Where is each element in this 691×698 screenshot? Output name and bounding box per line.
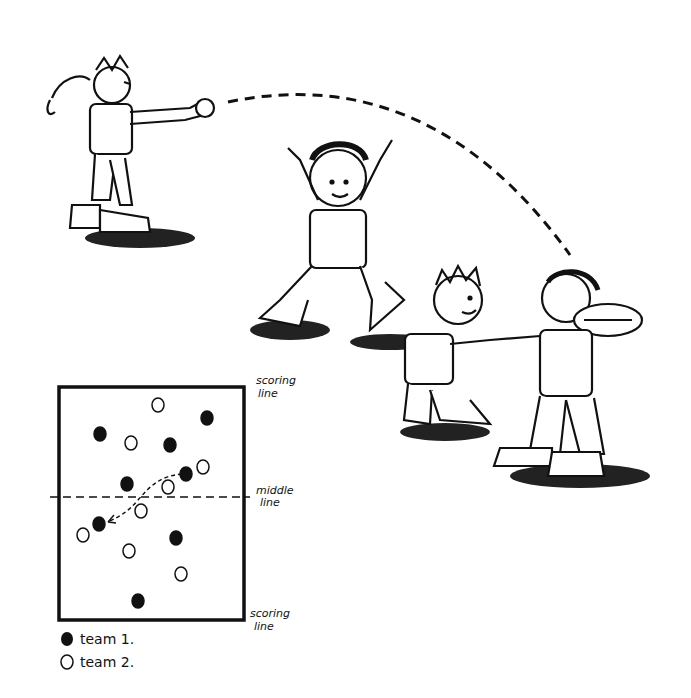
bottom-scoring-label-1: scoring <box>250 607 290 620</box>
field-diagram: scoring line middle line scoring line <box>50 374 296 633</box>
team1-player-dot <box>121 477 133 491</box>
team1-player-dot <box>180 467 192 481</box>
middle-line-label-2: line <box>260 496 280 509</box>
team1-player-dot <box>170 531 182 545</box>
figure-jumper <box>250 140 430 350</box>
team1-player-dot <box>94 427 106 441</box>
open-dot-icon <box>61 655 73 669</box>
scene: scoring line middle line scoring line te… <box>0 0 691 698</box>
filled-dot-icon <box>61 632 73 646</box>
figure-catcher <box>490 272 650 488</box>
team1-player-dot <box>93 517 105 531</box>
bottom-scoring-label-2: line <box>254 620 274 633</box>
top-scoring-label-2: line <box>258 387 278 400</box>
legend-team2: team 2. <box>80 654 134 670</box>
figure-thrower <box>48 56 214 248</box>
team2-player-dot <box>175 567 187 581</box>
arrow-head-icon <box>108 515 116 523</box>
legend: team 1. team 2. <box>61 631 134 670</box>
team1-player-dot <box>201 411 213 425</box>
team1-player-dot <box>132 594 144 608</box>
team2-players <box>77 398 209 581</box>
throw-path <box>228 95 570 255</box>
figure-small-child <box>400 266 490 441</box>
team2-player-dot <box>162 480 174 494</box>
team2-player-dot <box>123 544 135 558</box>
team2-player-dot <box>135 504 147 518</box>
team1-players <box>93 411 213 608</box>
legend-team1: team 1. <box>80 631 134 647</box>
top-scoring-label-1: scoring <box>256 374 296 387</box>
team2-player-dot <box>197 460 209 474</box>
team2-player-dot <box>77 528 89 542</box>
team1-player-dot <box>164 438 176 452</box>
team2-player-dot <box>152 398 164 412</box>
team2-player-dot <box>125 436 137 450</box>
field-boundary <box>59 387 244 620</box>
